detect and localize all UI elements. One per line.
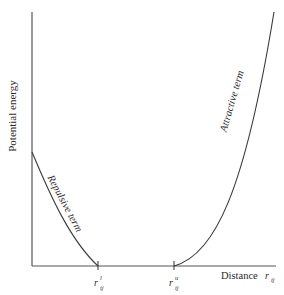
repulsive-term-label: Repulsive term <box>45 172 85 234</box>
attractive-curve <box>174 12 274 266</box>
tick-upper-symbol: r <box>169 277 173 288</box>
x-axis-symbol: r ij <box>265 270 275 283</box>
tick-upper-sub: ij <box>175 284 179 291</box>
x-axis-symbol-main: r <box>265 270 269 281</box>
diagram-canvas: Potential energy Repulsive term Attracti… <box>0 0 284 295</box>
tick-lower-sub: ij <box>100 284 104 291</box>
x-axis-label: Distance <box>221 270 258 281</box>
potential-energy-diagram: Potential energy Repulsive term Attracti… <box>0 0 284 295</box>
y-axis-label: Potential energy <box>6 80 18 152</box>
tick-label-upper: r u ij <box>169 274 179 291</box>
tick-lower-symbol: r <box>94 277 98 288</box>
tick-label-lower: r l ij <box>94 274 104 291</box>
attractive-term-label: Attractive term <box>217 69 245 134</box>
x-axis-symbol-sub: ij <box>271 276 275 283</box>
tick-lower-sup: l <box>100 274 102 281</box>
tick-upper-sup: u <box>175 274 179 281</box>
